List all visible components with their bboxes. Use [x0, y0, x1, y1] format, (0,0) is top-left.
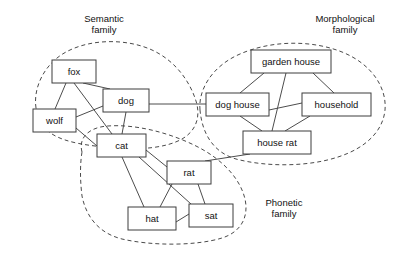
edge-cat-to-rat — [146, 150, 167, 167]
node-fox[interactable]: fox — [52, 60, 96, 83]
node-garden_house[interactable]: garden house — [251, 50, 331, 73]
node-label-fox: fox — [68, 66, 81, 77]
cluster-label-semantic-line1: Semantic — [84, 13, 124, 24]
node-label-household: household — [315, 99, 359, 110]
cluster-label-morphological-line2: family — [333, 24, 358, 35]
cluster-label-morphological: Morphologicalfamily — [315, 13, 374, 35]
edge-fox-to-dog — [83, 83, 110, 89]
cluster-label-phonetic-line2: family — [272, 208, 297, 219]
edge-rat-to-sat — [198, 184, 205, 204]
node-label-sat: sat — [205, 210, 218, 221]
edge-rat-to-house_rat — [205, 154, 250, 161]
cluster-label-semantic: Semanticfamily — [84, 13, 124, 35]
node-house_rat[interactable]: house rat — [243, 131, 311, 154]
edge-wolf-to-dog — [76, 106, 103, 117]
node-label-dog: dog — [118, 95, 134, 106]
node-hat[interactable]: hat — [128, 207, 176, 230]
node-label-house_rat: house rat — [257, 137, 297, 148]
edge-hat-to-sat — [176, 214, 189, 222]
edge-household-to-house_rat — [285, 116, 310, 131]
cluster-label-phonetic-line1: Phonetic — [266, 197, 303, 208]
edge-garden_house-to-house_rat — [272, 73, 286, 131]
edge-garden_house-to-household — [313, 73, 334, 93]
cluster-label-phonetic: Phoneticfamily — [266, 197, 303, 219]
node-label-dog_house: dog house — [215, 99, 259, 110]
node-label-rat: rat — [183, 167, 194, 178]
edge-rat-to-hat — [160, 184, 172, 207]
node-sat[interactable]: sat — [189, 204, 233, 227]
edge-dog_house-to-household — [269, 103, 302, 110]
node-label-wolf: wolf — [45, 115, 63, 126]
diagram-canvas: foxwolfdogcatrathatsatgarden housedog ho… — [0, 0, 413, 266]
diagram-root: foxwolfdogcatrathatsatgarden housedog ho… — [0, 0, 413, 266]
edge-fox-to-wolf — [55, 83, 66, 109]
node-cat[interactable]: cat — [97, 134, 146, 157]
cluster-label-morphological-line1: Morphological — [315, 13, 374, 24]
node-label-garden_house: garden house — [262, 56, 320, 67]
node-household[interactable]: household — [302, 93, 371, 116]
node-rat[interactable]: rat — [167, 161, 211, 184]
edge-dog_house-to-house_rat — [240, 116, 262, 131]
node-label-cat: cat — [115, 140, 128, 151]
edge-dog-to-cat — [122, 112, 126, 134]
node-label-hat: hat — [145, 213, 159, 224]
node-dog[interactable]: dog — [103, 89, 149, 112]
edge-garden_house-to-dog_house — [240, 73, 264, 93]
cluster-label-semantic-line2: family — [92, 24, 117, 35]
node-wolf[interactable]: wolf — [33, 109, 76, 132]
node-dog_house[interactable]: dog house — [206, 93, 269, 116]
edge-cat-to-hat — [122, 157, 144, 207]
